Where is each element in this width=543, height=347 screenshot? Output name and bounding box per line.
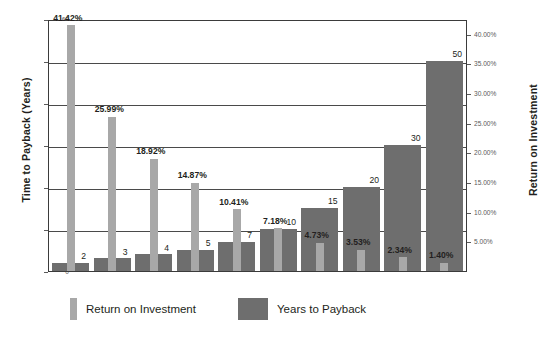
bar-label-roi: 25.99%	[95, 105, 124, 114]
bar-return-on-investment[interactable]	[233, 209, 241, 271]
bar-return-on-investment[interactable]	[399, 257, 407, 271]
bar-group: 203.53%	[341, 21, 383, 271]
right-tick-mark	[467, 153, 471, 154]
right-tick-label: 30.00%	[474, 90, 520, 97]
bar-label-years: 15	[328, 197, 338, 206]
bar-return-on-investment[interactable]	[357, 250, 365, 271]
bar-label-years: 7	[247, 231, 252, 240]
roi-swatch	[70, 298, 77, 320]
right-tick-label: 40.00%	[474, 31, 520, 38]
right-tick-mark	[467, 242, 471, 243]
bar-label-years: 3	[123, 248, 128, 257]
legend-label: Years to Payback	[277, 303, 366, 315]
bar-return-on-investment[interactable]	[316, 243, 324, 271]
right-tick-mark	[467, 213, 471, 214]
bar-groups: 241.42%325.99%418.92%514.87%710.41%107.1…	[49, 21, 466, 271]
bar-group: 154.73%	[299, 21, 341, 271]
bar-label-years: 5	[206, 239, 211, 248]
right-tick-label: 20.00%	[474, 149, 520, 156]
legend-item[interactable]: Years to Payback	[238, 298, 366, 320]
bar-group: 241.42%	[50, 21, 92, 271]
bar-group: 302.34%	[382, 21, 424, 271]
bar-return-on-investment[interactable]	[440, 263, 448, 271]
right-tick-label: 25.00%	[474, 120, 520, 127]
bar-group: 514.87%	[175, 21, 217, 271]
bar-label-roi: 4.73%	[305, 231, 329, 240]
right-tick-label: 10.00%	[474, 209, 520, 216]
right-tick-label: 15.00%	[474, 179, 520, 186]
bar-label-roi: 3.53%	[346, 238, 370, 247]
bar-label-years: 30	[411, 134, 421, 143]
bar-label-years: 2	[81, 252, 86, 261]
bar-label-roi: 1.40%	[429, 251, 453, 260]
left-tick-mark	[44, 272, 48, 273]
legend-item[interactable]: Return on Investment	[70, 298, 196, 320]
bar-return-on-investment[interactable]	[108, 117, 116, 271]
bar-group: 710.41%	[216, 21, 258, 271]
right-tick-mark	[467, 94, 471, 95]
bar-years-to-payback[interactable]	[426, 61, 463, 271]
chart-figure: Time to Payback (Years) Return on Invest…	[0, 0, 543, 347]
bar-group: 325.99%	[92, 21, 134, 271]
bar-label-roi: 41.42%	[53, 14, 82, 23]
bar-group: 501.40%	[424, 21, 466, 271]
bar-label-roi: 18.92%	[136, 147, 165, 156]
plot-area: 241.42%325.99%418.92%514.87%710.41%107.1…	[48, 20, 467, 272]
bar-group: 107.18%	[258, 21, 300, 271]
right-tick-mark	[467, 35, 471, 36]
bar-label-roi: 10.41%	[219, 198, 248, 207]
bar-label-years: 20	[369, 176, 379, 185]
bar-label-years: 4	[164, 244, 169, 253]
bar-return-on-investment[interactable]	[191, 183, 199, 271]
right-tick-mark	[467, 183, 471, 184]
legend-label: Return on Investment	[86, 303, 196, 315]
right-tick-label: 35.00%	[474, 60, 520, 67]
bar-label-roi: 14.87%	[178, 171, 207, 180]
bar-label-roi: 2.34%	[388, 246, 412, 255]
right-tick-mark	[467, 64, 471, 65]
left-axis-title: Time to Payback (Years)	[20, 60, 32, 220]
bar-return-on-investment[interactable]	[150, 159, 158, 271]
bar-return-on-investment[interactable]	[274, 228, 282, 271]
bar-return-on-investment[interactable]	[67, 25, 75, 271]
chart-legend: Return on InvestmentYears to Payback	[48, 296, 467, 330]
bar-label-years: 50	[452, 50, 462, 59]
bar-group: 418.92%	[133, 21, 175, 271]
bar-label-roi: 7.18%	[263, 217, 287, 226]
years-swatch	[238, 298, 268, 320]
right-axis-title: Return on Investment	[527, 60, 539, 220]
bar-label-years: 10	[286, 218, 296, 227]
right-tick-label: 5.00%	[474, 238, 520, 245]
right-tick-mark	[467, 124, 471, 125]
